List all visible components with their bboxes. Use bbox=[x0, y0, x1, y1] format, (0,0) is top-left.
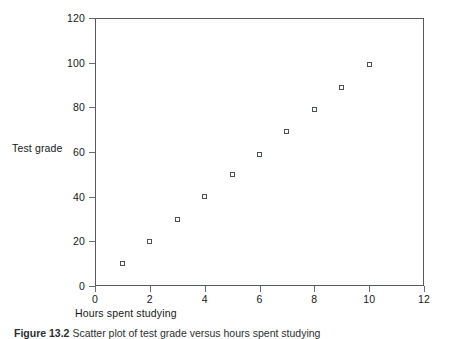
y-axis-tick-label: 40 bbox=[13, 192, 85, 203]
y-axis-tick bbox=[89, 286, 95, 287]
x-axis-tick-label: 8 bbox=[294, 294, 334, 305]
plot-area bbox=[95, 18, 424, 286]
x-axis-tick bbox=[95, 286, 96, 292]
figure-caption-text: Scatter plot of test grade versus hours … bbox=[72, 327, 320, 339]
x-axis-tick-label: 6 bbox=[240, 294, 280, 305]
x-axis-tick-label: 10 bbox=[349, 294, 389, 305]
figure-caption: Figure 13.2 Scatter plot of test grade v… bbox=[14, 327, 444, 339]
x-axis-tick bbox=[150, 286, 151, 292]
y-axis-tick-label: 80 bbox=[13, 102, 85, 113]
y-axis-tick-label: 20 bbox=[13, 236, 85, 247]
x-axis-tick-label: 2 bbox=[130, 294, 170, 305]
x-axis-tick bbox=[205, 286, 206, 292]
x-axis-tick-label: 12 bbox=[404, 294, 444, 305]
x-axis-tick-label: 0 bbox=[75, 294, 115, 305]
x-axis-tick-label: 4 bbox=[185, 294, 225, 305]
y-axis-tick-label: 0 bbox=[13, 281, 85, 292]
x-axis-tick bbox=[314, 286, 315, 292]
y-axis-tick-label: 120 bbox=[13, 13, 85, 24]
x-axis-tick bbox=[369, 286, 370, 292]
y-axis-title: Test grade bbox=[12, 143, 63, 154]
x-axis-tick bbox=[424, 286, 425, 292]
x-axis-title: Hours spent studying bbox=[75, 308, 177, 319]
x-axis-tick bbox=[260, 286, 261, 292]
figure-caption-label: Figure 13.2 bbox=[14, 327, 69, 339]
y-axis-tick-label: 100 bbox=[13, 58, 85, 69]
